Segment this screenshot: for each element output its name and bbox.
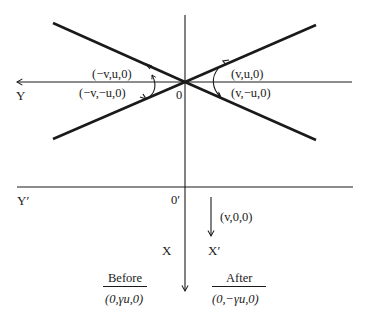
axis-y-label: Y xyxy=(16,89,25,102)
origin-label: 0 xyxy=(176,89,182,102)
axis-y-prime-label: Y′ xyxy=(17,194,29,207)
after-value: (0,−γu,0) xyxy=(212,293,259,306)
frame-velocity-label: (v,0,0) xyxy=(220,211,253,224)
velocity-label-upper-right: (v,u,0) xyxy=(231,68,264,81)
axis-x-prime-label: X′ xyxy=(208,244,220,257)
before-value: (0,γu,0) xyxy=(105,293,143,306)
velocity-label-lower-left: (−v,−u,0) xyxy=(79,87,126,100)
diagram-canvas xyxy=(0,0,370,320)
axis-x-label: X xyxy=(162,244,171,257)
origin-prime-label: 0′ xyxy=(171,194,180,207)
after-heading: After xyxy=(212,272,266,287)
velocity-label-lower-right: (v,−u,0) xyxy=(231,87,271,100)
before-heading: Before xyxy=(103,272,147,287)
direction-arrow-lower-left xyxy=(140,94,146,99)
velocity-label-upper-left: (−v,u,0) xyxy=(92,68,132,81)
